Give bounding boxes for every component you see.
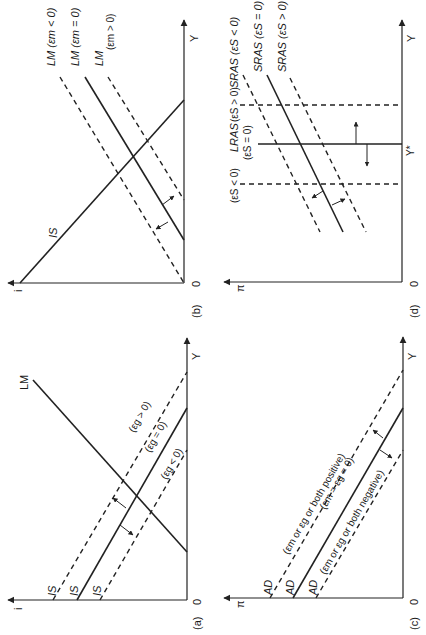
panel-c: π Y 0 (c) AD AD AD (εm or εg or both pos… xyxy=(224,337,420,630)
ad-upper-label: AD xyxy=(262,580,274,596)
lm-label: LM xyxy=(18,375,30,390)
y-axis-label: Y xyxy=(190,352,202,360)
sras-arrow-right xyxy=(332,199,345,205)
lras-pos-label: (εS > 0) xyxy=(229,87,240,122)
lm-curve-neg xyxy=(60,77,184,283)
eg-zero-label: (εg = 0) xyxy=(142,419,168,454)
lm-curve-zero xyxy=(85,77,184,240)
lm-neg-label: LM (εm < 0) xyxy=(45,7,57,66)
i-axis-label: i xyxy=(12,608,24,610)
lm-pos-cond-label: (εm > 0) xyxy=(105,14,116,50)
panel-a: i Y 0 (a) LM IS IS IS (εg > 0) (εg = 0) … xyxy=(8,338,203,630)
lm-curve-pos xyxy=(108,77,184,200)
sras-neg xyxy=(243,75,320,232)
sras-zero-label: SRAS (εS = 0) xyxy=(252,1,264,72)
origin-label: 0 xyxy=(408,599,420,605)
sras-zero xyxy=(267,75,343,232)
lras-label: LRAS xyxy=(228,123,240,152)
sras-neg-label: SRAS (εS < 0) xyxy=(228,17,240,88)
y-axis-label: Y xyxy=(406,352,418,360)
is-curve xyxy=(20,100,184,283)
panel-b: i Y 0 (b) IS LM (εm < 0) LM (εm = 0) LM … xyxy=(8,7,202,318)
shift-arrow-down xyxy=(120,525,133,535)
is-curve-neg xyxy=(100,450,187,600)
shift-arrow-right xyxy=(162,196,174,205)
origin-label: 0 xyxy=(190,281,202,287)
ad-arrow-down xyxy=(380,450,392,458)
is-lower-label: IS xyxy=(91,585,103,596)
is-mid-label: IS xyxy=(68,585,80,596)
macro-shocks-diagram: i Y 0 (b) IS LM (εm < 0) LM (εm = 0) LM … xyxy=(0,0,426,635)
lm-zero-label: LM (εm = 0) xyxy=(69,7,81,66)
y-axis-label: Y xyxy=(405,34,417,42)
eg-pos-label: (εg > 0) xyxy=(126,399,152,434)
ad-arrow-up xyxy=(373,430,383,438)
pi-axis-label: π xyxy=(234,284,246,292)
ad-mid-label: AD xyxy=(284,580,296,596)
i-axis-label: i xyxy=(12,290,24,292)
es-neg-label: (εS < 0) xyxy=(229,168,240,203)
panel-label: (a) xyxy=(191,617,203,630)
panel-label: (c) xyxy=(408,617,420,630)
origin-label: 0 xyxy=(191,599,203,605)
is-curve-zero xyxy=(77,408,187,600)
sras-arrow-left xyxy=(312,191,323,198)
sras-pos xyxy=(290,78,366,232)
is-label: IS xyxy=(47,227,59,238)
lm-pos-label: LM xyxy=(93,50,105,66)
panel-label: (b) xyxy=(190,305,202,318)
y-axis-label: Y xyxy=(188,34,200,42)
shift-arrow-left xyxy=(156,222,168,229)
panel-d: π Y 0 (d) Y* (εS < 0) LRAS (εS = 0) (εS … xyxy=(224,1,420,318)
y-star-label: Y* xyxy=(405,145,416,156)
panel-label: (d) xyxy=(408,305,420,318)
sras-pos-label: SRAS (εS > 0) xyxy=(276,1,288,72)
origin-label: 0 xyxy=(408,281,420,287)
pi-axis-label: π xyxy=(234,600,246,608)
is-upper-label: IS xyxy=(46,585,58,596)
shift-arrow-up xyxy=(113,498,126,508)
es-zero-label: (εS = 0) xyxy=(242,125,253,160)
ad-lower-label: AD xyxy=(307,580,319,596)
